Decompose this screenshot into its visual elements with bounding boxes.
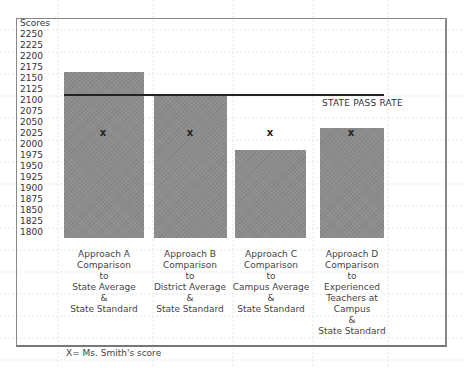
y-tick: 2150: [20, 73, 52, 83]
bar-approach-d: [320, 128, 384, 238]
y-tick: 1900: [20, 183, 52, 193]
y-tick: 2175: [20, 62, 52, 72]
y-tick: 1800: [20, 227, 52, 237]
x-marker-approach-d: x: [345, 128, 357, 138]
x-marker-approach-b: x: [184, 128, 196, 138]
y-tick: 1950: [20, 161, 52, 171]
y-tick: 1825: [20, 216, 52, 226]
y-tick: 2000: [20, 139, 52, 149]
y-tick: 2025: [20, 128, 52, 138]
category-label-b: Approach B Comparison to District Averag…: [145, 249, 235, 315]
y-tick: 1925: [20, 172, 52, 182]
state-pass-rate-label: STATE PASS RATE: [322, 98, 403, 108]
y-tick: 2125: [20, 84, 52, 94]
y-axis-title: Scores: [20, 18, 52, 28]
y-tick: 2225: [20, 40, 52, 50]
y-tick: 2075: [20, 106, 52, 116]
legend-text: X= Ms. Smith's score: [66, 348, 161, 358]
category-label-c: Approach C Comparison to Campus Average …: [226, 249, 316, 315]
y-tick: 1850: [20, 205, 52, 215]
y-tick: 2250: [20, 29, 52, 39]
x-marker-approach-a: x: [97, 128, 109, 138]
state-pass-rate-line: [64, 94, 384, 96]
y-tick: 2200: [20, 51, 52, 61]
y-tick: 2100: [20, 95, 52, 105]
y-tick: 1875: [20, 194, 52, 204]
category-label-a: Approach A Comparison to State Average &…: [59, 249, 149, 315]
category-label-d: Approach D Comparison to Experienced Tea…: [307, 249, 397, 337]
bar-approach-b: [154, 96, 227, 238]
x-marker-approach-c: x: [264, 128, 276, 138]
bar-approach-c: [235, 150, 306, 238]
bar-approach-a: [64, 72, 144, 238]
y-tick: 2050: [20, 117, 52, 127]
y-tick: 1975: [20, 150, 52, 160]
